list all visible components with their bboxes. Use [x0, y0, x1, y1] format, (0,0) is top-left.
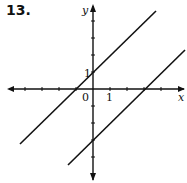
x-axis: [7, 86, 185, 92]
y-tick-label: 1: [84, 67, 91, 80]
x-axis-label: x: [178, 91, 185, 104]
x-tick-label: 1: [106, 91, 113, 104]
arrow-up-icon: [90, 4, 96, 12]
y-axis-label: y: [81, 4, 89, 17]
arrow-down-icon: [90, 173, 96, 181]
origin-label: 0: [82, 91, 89, 104]
arrow-left-icon: [7, 86, 14, 92]
coordinate-plane: y x 0 1 1: [0, 0, 187, 183]
y-axis: [90, 4, 96, 181]
